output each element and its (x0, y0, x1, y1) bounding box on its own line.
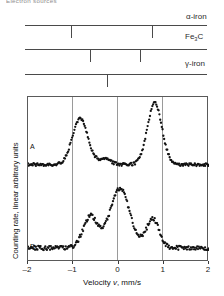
x-axis-tick-label-3: 1 (161, 265, 165, 274)
fe3c-tick-1 (90, 49, 91, 62)
alpha-iron-tick-2 (152, 25, 153, 38)
alpha-iron-tick-1 (71, 25, 72, 38)
x-axis-title: Velocity v, mm/s (0, 278, 224, 287)
x-axis-tick-label-2: 0 (115, 265, 119, 274)
x-axis-tick-0 (27, 261, 28, 264)
x-axis-title-suffix: , mm/s (117, 278, 141, 287)
alpha-iron-label: α-iron (186, 12, 207, 21)
x-axis-tick-4 (208, 261, 209, 264)
spectra-traces (28, 97, 209, 262)
mossbauer-spectra-figure: Electron sources α-iron Fe3C γ-iron A B … (0, 0, 224, 296)
x-axis-title-prefix: Velocity (83, 278, 113, 287)
spectrum-a-label: A (30, 143, 35, 150)
fe3c-label: Fe3C (185, 32, 203, 42)
x-axis-tick-3 (163, 261, 164, 264)
fe3c-baseline (25, 49, 207, 50)
x-axis-tick-2 (118, 261, 119, 264)
gamma-iron-tick-1 (107, 74, 108, 87)
x-axis-tick-label-1: –1 (68, 265, 77, 274)
fe3c-tick-2 (140, 49, 141, 62)
spectrum-b-label: B (30, 243, 35, 250)
alpha-iron-baseline (25, 25, 207, 26)
y-axis-title: Counting rate, linear arbitrary units (11, 143, 20, 260)
x-axis-tick-1 (72, 261, 73, 264)
gamma-iron-baseline (25, 74, 207, 75)
x-axis-tick-label-0: –2 (23, 265, 32, 274)
spectrum-a-trace (28, 101, 209, 167)
x-axis-tick-label-4: 2 (206, 265, 210, 274)
spectrum-b-trace (28, 187, 209, 251)
spectra-plot-frame (27, 96, 208, 261)
gamma-iron-label: γ-iron (185, 59, 205, 68)
figure-top-caption: Electron sources (6, 0, 57, 3)
